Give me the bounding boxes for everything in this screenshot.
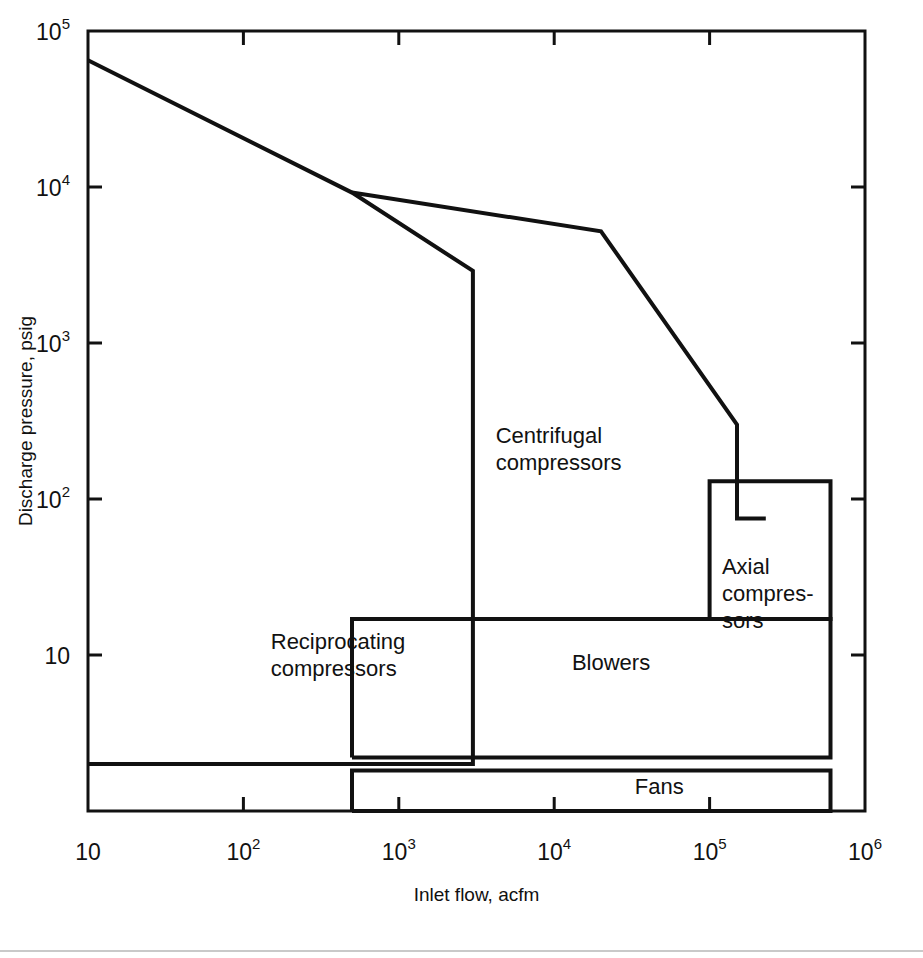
- region-label-fans: Fans: [635, 774, 684, 799]
- x-axis-title: Inlet flow, acfm: [414, 884, 540, 905]
- chart-plot-area: 1010210310410510610102103104105Reciproca…: [0, 0, 923, 958]
- x-tick-label-1000: 103: [382, 835, 416, 865]
- y-axis-title: Discharge pressure, psig: [15, 316, 36, 526]
- x-tick-label-10000: 104: [537, 835, 571, 865]
- region-label-blowers: Blowers: [572, 650, 650, 675]
- x-tick-label-100: 102: [226, 835, 260, 865]
- y-tick-label-10000: 104: [36, 171, 70, 201]
- region-label-reciprocating-compressors: Reciprocatingcompressors: [271, 629, 406, 681]
- y-tick-label-1000: 103: [36, 327, 70, 357]
- region-boundary-fans: [352, 770, 831, 811]
- x-tick-label-1000000: 106: [848, 835, 882, 865]
- y-tick-label-10: 10: [44, 643, 70, 669]
- plot-frame: [88, 31, 865, 811]
- x-tick-label-10: 10: [75, 839, 101, 865]
- region-boundary-blowers: [352, 619, 831, 758]
- x-tick-label-100000: 105: [693, 835, 727, 865]
- y-tick-label-100000: 105: [36, 15, 70, 45]
- page-divider-rule: [0, 950, 923, 952]
- region-label-axial-compressors: Axialcompres-sors: [722, 554, 814, 633]
- region-label-centrifugal-compressors: Centrifugalcompressors: [496, 423, 622, 475]
- y-tick-label-100: 102: [36, 483, 70, 513]
- compressor-selection-chart: 1010210310410510610102103104105Reciproca…: [0, 0, 923, 958]
